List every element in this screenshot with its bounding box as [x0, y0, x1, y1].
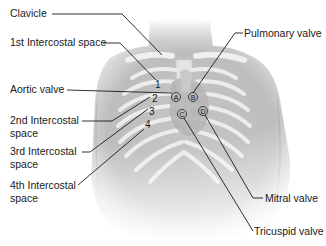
rib-number-1: 1	[155, 80, 161, 90]
label-4th-intercostal-line2: space	[10, 192, 38, 205]
label-aortic-valve: Aortic valve	[10, 83, 64, 96]
label-3rd-intercostal-line2: space	[10, 158, 38, 171]
label-2nd-intercostal-line1: 2nd Intercostal	[10, 114, 79, 127]
rib-number-4: 4	[145, 120, 151, 130]
svg-text:B: B	[191, 94, 196, 101]
label-tricuspid-valve: Tricuspid valve	[254, 225, 324, 238]
label-1st-intercostal-space: 1st Intercostal space	[10, 36, 106, 49]
svg-text:C: C	[179, 111, 184, 118]
label-2nd-intercostal-line2: space	[10, 127, 38, 140]
rib-number-3: 3	[149, 107, 155, 117]
label-mitral-valve: Mitral valve	[265, 192, 318, 205]
label-4th-intercostal-line1: 4th Intercostal	[10, 179, 76, 192]
rib-number-2: 2	[152, 94, 158, 104]
chest-anatomy-diagram: A B C D Clavicle 1st Intercostal space A…	[0, 0, 326, 246]
label-pulmonary-valve: Pulmonary valve	[244, 27, 322, 40]
label-clavicle: Clavicle	[10, 7, 47, 20]
svg-text:A: A	[174, 94, 179, 101]
svg-text:D: D	[200, 108, 205, 115]
label-3rd-intercostal-line1: 3rd Intercostal	[10, 145, 77, 158]
